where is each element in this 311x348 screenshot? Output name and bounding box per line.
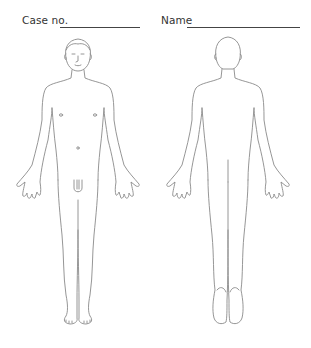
back-body-figure[interactable] bbox=[167, 37, 290, 324]
body-chart bbox=[0, 0, 311, 348]
front-body-figure[interactable] bbox=[17, 39, 140, 324]
